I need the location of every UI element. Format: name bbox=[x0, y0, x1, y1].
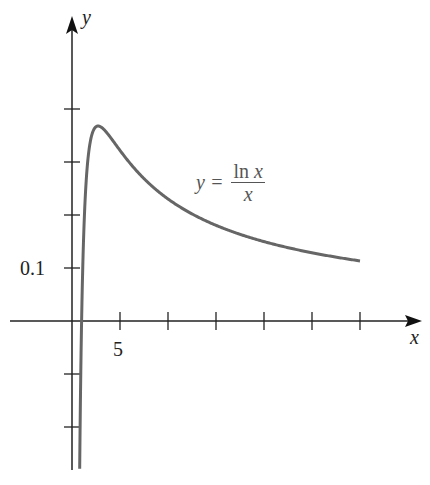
chart: y x 5 0.1 y = ln x x bbox=[0, 0, 430, 485]
eq-lhs: y = bbox=[196, 171, 223, 194]
eq-num-x: x bbox=[254, 160, 263, 182]
y-tick-label-0.1: 0.1 bbox=[20, 257, 45, 280]
x-axis-label: x bbox=[410, 326, 419, 349]
x-tick-label-5: 5 bbox=[113, 338, 123, 361]
eq-den: x bbox=[244, 183, 253, 205]
plot-area bbox=[0, 0, 430, 485]
eq-num-ln: ln bbox=[233, 160, 254, 182]
y-axis-label: y bbox=[82, 6, 91, 29]
function-annotation: y = ln x x bbox=[196, 160, 265, 205]
